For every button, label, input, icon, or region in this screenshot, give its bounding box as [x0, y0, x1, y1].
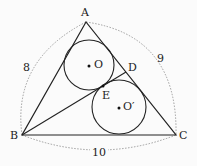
- label-a: A: [81, 7, 89, 18]
- label-e: E: [102, 90, 110, 101]
- length-ab: 8: [23, 62, 30, 73]
- geometry-diagram: A B C D E O O′ 8 9 10: [0, 0, 197, 166]
- center-o-prime-dot: [118, 107, 121, 110]
- label-o-prime: O′: [123, 101, 135, 112]
- center-o-dot: [88, 65, 91, 68]
- label-b: B: [10, 130, 18, 141]
- diagram-canvas: [0, 0, 197, 166]
- label-d: D: [128, 62, 137, 73]
- triangle-abc: [22, 22, 176, 135]
- length-ac: 9: [157, 53, 164, 64]
- label-o: O: [94, 59, 103, 70]
- label-c: C: [179, 130, 187, 141]
- length-bc: 10: [90, 147, 108, 158]
- point-e-dot: [102, 85, 105, 88]
